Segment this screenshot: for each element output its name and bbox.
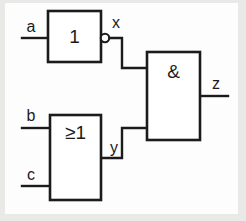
signal-label-x: x	[112, 14, 120, 31]
wire-x-to-and	[109, 38, 147, 68]
signal-label-y: y	[110, 139, 118, 156]
signal-label-c: c	[27, 166, 35, 183]
and-gate-label: &	[167, 61, 180, 82]
or-gate-label: ≥1	[65, 122, 86, 143]
signal-label-b: b	[27, 107, 36, 124]
logic-circuit-diagram: 1 ≥1 & a x b c y z	[0, 0, 246, 221]
not-gate-label: 1	[69, 26, 80, 47]
signal-label-a: a	[27, 18, 36, 35]
wire-y-to-and	[101, 128, 147, 158]
inversion-bubble-icon	[101, 34, 109, 42]
signal-label-z: z	[212, 75, 220, 92]
circuit-svg: 1 ≥1 & a x b c y z	[0, 0, 246, 221]
